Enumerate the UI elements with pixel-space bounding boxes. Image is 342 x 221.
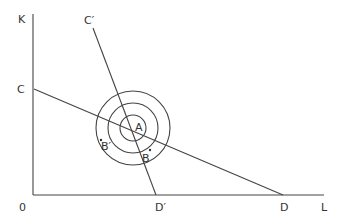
- label-c-prime: C′: [84, 14, 95, 27]
- y-axis-label: K: [18, 13, 26, 26]
- origin-label: 0: [19, 201, 26, 214]
- line-c-d: [34, 89, 283, 195]
- middle-circle: [108, 103, 158, 153]
- x-axis-label: L: [321, 201, 328, 214]
- outer-circle: [96, 91, 170, 165]
- point-b-dot: [149, 149, 151, 151]
- label-d-prime: D′: [155, 201, 166, 214]
- label-c: C: [17, 83, 25, 96]
- label-b-prime: B′: [101, 140, 112, 153]
- label-d: D: [280, 201, 288, 214]
- label-b: B: [142, 152, 150, 165]
- line-c-prime-d-prime: [93, 28, 156, 195]
- diagram-canvas: K L 0 C D C′ D′ A B′ B: [0, 0, 342, 221]
- label-a: A: [135, 121, 143, 134]
